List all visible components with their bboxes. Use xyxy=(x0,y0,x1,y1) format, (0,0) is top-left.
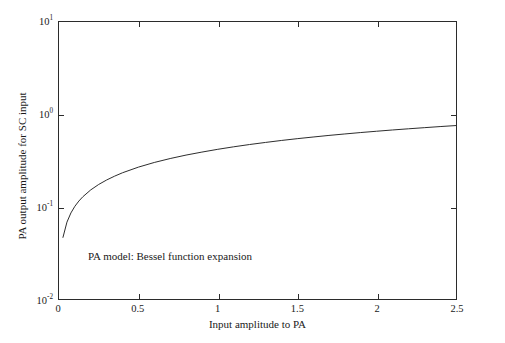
ytick-mantissa: 10 xyxy=(37,202,48,213)
ytick-mantissa: 10 xyxy=(37,295,48,306)
series-pa-output-curve xyxy=(63,126,456,238)
xtick-label-0p5: 0.5 xyxy=(131,303,144,315)
ytick-label-10e1: 101 xyxy=(39,16,53,27)
ytick-exponent: -2 xyxy=(47,293,53,301)
ytick-exponent: 1 xyxy=(49,14,53,22)
plot-annotation-pa-model: PA model: Bessel function expansion xyxy=(88,250,252,262)
ytick-label-10e-2: 10-2 xyxy=(37,295,54,306)
ytick-exponent: 0 xyxy=(49,107,53,115)
ytick-mantissa: 10 xyxy=(39,16,50,27)
y-axis-title: PA output amplitude for SC input xyxy=(16,27,28,306)
ytick-label-10e-1: 10-1 xyxy=(37,202,54,213)
ytick-mantissa: 10 xyxy=(39,109,50,120)
ytick-exponent: -1 xyxy=(47,200,53,208)
ytick-label-10e0: 100 xyxy=(39,109,53,120)
xtick-label-2: 2 xyxy=(375,303,380,315)
x-axis-title: Input amplitude to PA xyxy=(58,318,457,330)
xtick-label-1p5: 1.5 xyxy=(291,303,304,315)
xtick-label-0: 0 xyxy=(55,303,60,315)
xtick-label-1: 1 xyxy=(215,303,220,315)
xtick-label-2p5: 2.5 xyxy=(450,303,463,315)
figure-canvas: 101 100 10-1 10-2 0 0.5 1 1.5 2 2.5 Inpu… xyxy=(0,0,505,343)
